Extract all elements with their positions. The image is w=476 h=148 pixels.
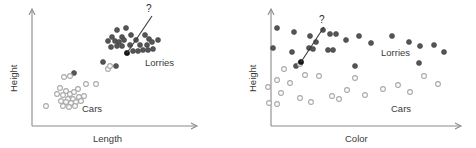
data-point-car	[72, 90, 77, 95]
data-point-lorry	[390, 34, 395, 39]
data-point-car	[44, 104, 49, 109]
data-point-car	[303, 73, 308, 78]
data-point-lorry	[418, 44, 423, 49]
left-panel: Height Length ? Lorries Cars	[8, 3, 197, 144]
data-point-lorry	[143, 33, 148, 38]
data-point-car	[381, 87, 386, 92]
data-point-car	[337, 97, 342, 102]
data-point-lorry	[145, 43, 150, 48]
data-point-car	[298, 96, 303, 101]
data-point-car	[436, 82, 441, 87]
data-point-lorry	[331, 48, 336, 53]
right-points-group	[266, 26, 447, 107]
data-point-car	[353, 76, 358, 81]
data-point-car	[363, 93, 368, 98]
data-point-car	[422, 74, 427, 79]
right-x-axis-label: Color	[345, 133, 368, 144]
data-point-lorry	[131, 49, 136, 54]
data-point-lorry	[120, 44, 125, 49]
data-point-car	[68, 74, 73, 79]
data-point-lorry	[114, 64, 119, 69]
data-point-lorry	[407, 40, 412, 45]
left-cluster-label-lorries: Lorries	[145, 57, 174, 68]
data-point-lorry	[156, 38, 161, 43]
data-point-lorry	[290, 50, 295, 55]
data-point-lorry	[101, 60, 106, 65]
data-point-car	[108, 64, 113, 69]
data-point-car	[61, 104, 66, 109]
data-point-lorry	[150, 40, 155, 45]
data-point-car	[266, 85, 271, 90]
two-panel-scatter-figure: Height Length ? Lorries Cars Height Colo…	[0, 0, 476, 148]
data-point-lorry	[109, 45, 114, 50]
data-point-car	[82, 94, 87, 99]
data-point-car	[67, 105, 72, 110]
data-point-car	[288, 81, 293, 86]
data-point-lorry	[146, 48, 151, 53]
right-cluster-label-cars: Cars	[391, 103, 411, 114]
data-point-lorry	[271, 46, 276, 51]
data-point-lorry	[369, 41, 374, 46]
data-point-lorry	[344, 38, 349, 43]
data-point-lorry	[334, 32, 339, 37]
right-cluster-label-lorries: Lorries	[381, 47, 410, 58]
data-point-car	[62, 75, 67, 80]
left-question-mark: ?	[146, 3, 152, 14]
data-point-car	[408, 90, 413, 95]
left-points-group	[44, 26, 161, 110]
data-point-lorry	[326, 48, 331, 53]
data-point-lorry	[417, 61, 422, 66]
data-point-car	[309, 100, 314, 105]
data-point-lorry	[353, 64, 358, 69]
left-x-axis-label: Length	[93, 133, 122, 144]
data-point-lorry	[124, 26, 129, 31]
data-point-lorry	[129, 33, 134, 38]
left-cluster-label-cars: Cars	[82, 103, 102, 114]
data-point-car	[330, 94, 335, 99]
data-point-car	[94, 82, 99, 87]
data-point-car	[73, 104, 78, 109]
data-point-car	[282, 67, 287, 72]
data-point-car	[279, 91, 284, 96]
data-point-lorry	[328, 32, 333, 37]
data-point-lorry	[308, 34, 313, 39]
data-point-car	[396, 83, 401, 88]
data-point-car	[317, 74, 322, 79]
data-point-lorry	[275, 26, 280, 31]
data-point-car	[84, 82, 89, 87]
data-point-lorry	[432, 43, 437, 48]
data-point-car	[58, 86, 63, 91]
data-point-lorry	[106, 39, 111, 44]
data-point-lorry	[357, 34, 362, 39]
data-point-lorry	[442, 50, 447, 55]
data-point-lorry	[115, 44, 120, 49]
right-question-mark: ?	[319, 14, 325, 25]
data-point-lorry	[141, 48, 146, 53]
right-y-axis-label: Height	[247, 64, 258, 92]
data-point-lorry	[151, 47, 156, 52]
data-point-car	[55, 92, 60, 97]
right-pointer-line	[301, 27, 324, 62]
data-point-car	[61, 93, 66, 98]
data-point-car	[275, 78, 280, 83]
right-panel: Height Color ? Lorries Cars	[247, 9, 461, 144]
data-point-lorry	[136, 49, 141, 54]
data-point-car	[345, 88, 350, 93]
data-point-lorry	[138, 43, 143, 48]
data-point-car	[267, 101, 272, 106]
data-point-car	[275, 102, 280, 107]
data-point-lorry	[115, 28, 120, 33]
data-point-lorry	[122, 38, 127, 43]
data-point-car	[59, 99, 64, 104]
data-point-lorry	[292, 30, 297, 35]
left-y-axis-label: Height	[8, 64, 19, 92]
